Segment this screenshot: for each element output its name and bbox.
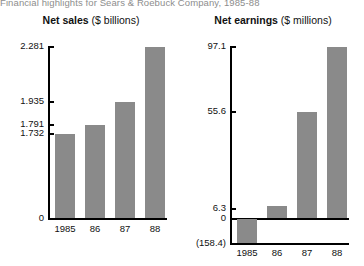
chart-title-net-earnings-units: ($ millions) xyxy=(278,14,332,26)
chart-title-net-earnings-bold: Net earnings xyxy=(214,14,278,26)
y-label-zero: 0 xyxy=(0,213,44,222)
y-label-zero-earnings: 0 xyxy=(182,213,226,222)
y-tick-1791 xyxy=(48,124,54,126)
plot-area-net-earnings: 97.1 55.6 6.3 0 (158.4) 1985 86 87 88 xyxy=(182,28,364,266)
chart-net-earnings: Net earnings ($ millions) 97.1 55.6 6.3 … xyxy=(182,14,364,266)
y-label-63: 6.3 xyxy=(182,203,226,212)
bar-net-sales-86 xyxy=(85,125,105,218)
y-label-neg1584: (158.4) xyxy=(178,238,226,247)
x-label-net-earnings-88: 88 xyxy=(319,248,355,257)
bar-net-sales-1985 xyxy=(55,134,75,218)
bar-net-sales-87 xyxy=(115,102,135,218)
y-axis-net-earnings xyxy=(230,46,232,244)
y-tick-556 xyxy=(230,111,236,113)
y-label-2281: 2.281 xyxy=(0,41,44,50)
chart-title-net-sales-bold: Net sales xyxy=(43,14,89,26)
bar-net-earnings-87 xyxy=(297,112,317,218)
y-tick-1732 xyxy=(48,133,54,135)
bar-net-earnings-88 xyxy=(327,47,347,218)
figure-caption: Financial highlights for Sears & Roebuck… xyxy=(0,0,364,9)
y-tick-971 xyxy=(230,46,236,48)
x-axis-net-earnings xyxy=(230,243,349,245)
y-label-556: 55.6 xyxy=(182,106,226,115)
y-label-1935: 1.935 xyxy=(0,96,44,105)
x-label-net-sales-88: 88 xyxy=(137,224,173,233)
bar-net-sales-88 xyxy=(145,47,165,218)
chart-net-sales: Net sales ($ billions) 2.281 1.935 1.791… xyxy=(0,14,182,266)
plot-area-net-sales: 2.281 1.935 1.791 1.732 0 1985 86 87 88 xyxy=(0,28,182,266)
x-axis-net-sales xyxy=(48,218,167,220)
bar-net-earnings-86 xyxy=(267,206,287,218)
chart-title-net-sales-units: ($ billions) xyxy=(89,14,140,26)
chart-title-net-sales: Net sales ($ billions) xyxy=(0,14,182,26)
y-tick-1935 xyxy=(48,101,54,103)
chart-title-net-earnings: Net earnings ($ millions) xyxy=(182,14,364,26)
bar-net-earnings-1985 xyxy=(237,219,257,243)
y-label-1732: 1.732 xyxy=(0,128,44,137)
y-tick-2281 xyxy=(48,46,54,48)
y-tick-63 xyxy=(230,208,236,210)
y-label-971: 97.1 xyxy=(182,41,226,50)
